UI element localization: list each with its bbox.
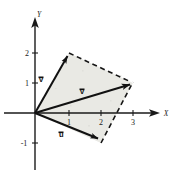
- y-tick-label-2: 2: [25, 49, 29, 58]
- vector-diagram-svg: Y X 1 2 3 2 1 -1 v u v: [0, 0, 181, 180]
- y-tick-label-1: 1: [25, 79, 29, 88]
- x-tick-label-1: 1: [67, 118, 71, 127]
- y-tick-label-neg1: -1: [21, 139, 28, 148]
- y-axis-label: Y: [37, 10, 42, 19]
- x-tick-label-3: 3: [131, 118, 135, 127]
- vector-diagram-figure: Y X 1 2 3 2 1 -1 v u v: [0, 0, 181, 180]
- vector-u-label: u: [59, 130, 64, 139]
- x-axis-label: X: [163, 109, 169, 118]
- vector-v-label: v: [39, 75, 44, 84]
- x-tick-label-2: 2: [99, 118, 103, 127]
